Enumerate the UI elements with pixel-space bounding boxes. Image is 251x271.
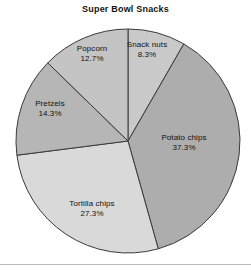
pie-label-pretzels: Pretzels 14.3% bbox=[22, 99, 78, 119]
pie-label-snack-nuts-name: Snack nuts bbox=[116, 40, 178, 50]
pie-chart-figure: Super Bowl Snacks Snack nuts 8.3% Potato… bbox=[0, 0, 251, 271]
pie-label-potato-chips: Potato chips 37.3% bbox=[148, 133, 220, 153]
pie-label-snack-nuts-value: 8.3% bbox=[116, 50, 178, 60]
pie-label-potato-chips-name: Potato chips bbox=[148, 133, 220, 143]
footer-divider bbox=[0, 264, 251, 265]
pie-label-popcorn: Popcorn 12.7% bbox=[63, 44, 121, 64]
pie-label-pretzels-name: Pretzels bbox=[22, 99, 78, 109]
pie-label-potato-chips-value: 37.3% bbox=[148, 143, 220, 153]
pie-label-tortilla-chips: Tortilla chips 27.3% bbox=[52, 199, 132, 219]
pie-label-tortilla-chips-value: 27.3% bbox=[52, 209, 132, 219]
pie-label-pretzels-value: 14.3% bbox=[22, 109, 78, 119]
pie-label-snack-nuts: Snack nuts 8.3% bbox=[116, 40, 178, 60]
pie-label-popcorn-name: Popcorn bbox=[63, 44, 121, 54]
pie-label-popcorn-value: 12.7% bbox=[63, 54, 121, 64]
pie-label-tortilla-chips-name: Tortilla chips bbox=[52, 199, 132, 209]
